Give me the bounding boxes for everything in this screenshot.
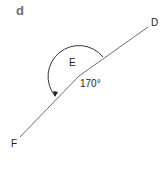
point-label-f: F <box>11 138 17 149</box>
angle-figure <box>0 0 167 195</box>
angle-diagram: d D E F 170° <box>0 0 167 195</box>
point-label-e: E <box>69 57 76 68</box>
point-label-d: D <box>151 17 158 28</box>
ray-ed <box>79 27 148 76</box>
angle-value-label: 170° <box>80 78 101 89</box>
